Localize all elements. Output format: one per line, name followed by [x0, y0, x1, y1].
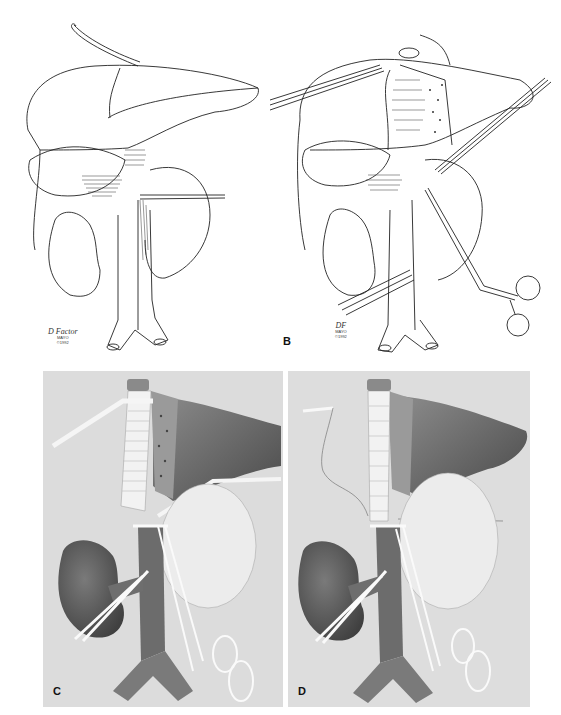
figure-panel-d: D: [288, 371, 530, 707]
shaded-illustration-d: [288, 371, 530, 707]
shaded-illustration-c: [43, 371, 283, 707]
liver-kidney-line-drawing-b: [270, 0, 561, 362]
panel-label-c: C: [53, 685, 61, 697]
figure-panel-c: C: [43, 371, 283, 707]
liver-kidney-line-drawing-a: [0, 0, 280, 362]
figure-panel-a: D Factor MAYO ©1992: [0, 0, 280, 362]
figure-panel-b: B DF MAYO ©1992: [270, 0, 561, 362]
panel-label-d: D: [298, 685, 306, 697]
illustrator-signature: D Factor MAYO ©1992: [48, 328, 78, 345]
panel-label-b: B: [283, 335, 291, 347]
illustrator-signature: DF MAYO ©1992: [335, 322, 347, 339]
